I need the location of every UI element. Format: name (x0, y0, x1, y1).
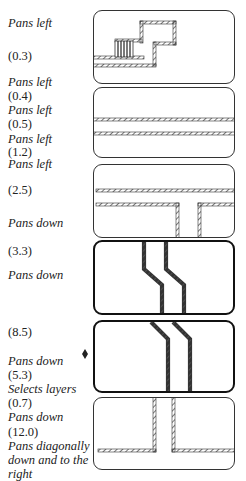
action-label: Pans down (8, 410, 63, 424)
duration-label: (0.3) (8, 49, 32, 63)
panel-3-t-junction (93, 164, 235, 238)
action-label: Pans left (8, 132, 52, 146)
action-label: Pans left (8, 157, 52, 171)
duration-label: (0.7) (8, 396, 32, 410)
duration-label: (0.5) (8, 117, 32, 131)
trace-diagram (94, 165, 235, 238)
current-step-marker-icon (82, 349, 88, 359)
panel-1-staircase (93, 10, 235, 84)
panel-2-horizontal-traces (93, 87, 235, 158)
action-label: Pans left (8, 16, 52, 30)
trace-diagram (95, 242, 235, 315)
duration-label: (0.4) (8, 89, 32, 103)
action-label: down and to the (8, 453, 88, 467)
action-label: Pans down (8, 354, 63, 368)
action-label: Pans left (8, 75, 52, 89)
panel-5-diagonal-descent (93, 320, 235, 393)
action-label: Pans down (8, 216, 63, 230)
trace-diagram (94, 398, 235, 470)
duration-label: (8.5) (8, 325, 32, 339)
duration-label: (12.0) (8, 425, 38, 439)
action-label: Pans left (8, 103, 52, 117)
duration-label: (3.3) (8, 244, 32, 258)
panel-4-diagonal-jog (93, 240, 235, 315)
trace-diagram (94, 11, 235, 84)
duration-label: (2.5) (8, 183, 32, 197)
trace-diagram (95, 322, 235, 393)
panel-6-corner-traces (93, 397, 235, 470)
layer-hatch-block (115, 41, 133, 57)
duration-label: (5.3) (8, 368, 32, 382)
action-label: Pans down (8, 268, 63, 282)
trace-diagram (94, 88, 235, 158)
action-label: right (8, 467, 32, 481)
action-label: Selects layers (8, 382, 76, 396)
action-label: Pans diagonally (8, 439, 90, 453)
